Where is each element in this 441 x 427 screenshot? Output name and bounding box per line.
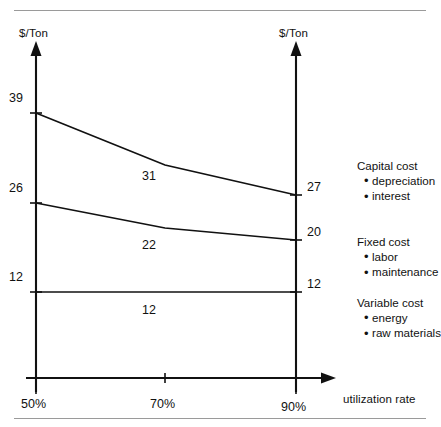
point-label-fixed-mid: 22	[142, 238, 156, 252]
x-axis-arrowhead	[321, 373, 336, 384]
legend-item-label: energy	[372, 311, 407, 324]
legend-heading: Capital cost	[357, 158, 435, 173]
bullet-icon: •	[364, 311, 372, 324]
right-tick-label-12: 12	[307, 277, 321, 291]
bullet-icon: •	[364, 250, 372, 263]
left-y-axis-title: $/Ton	[19, 27, 48, 40]
legend-item-label: labor	[372, 250, 398, 263]
x-tick-label-90: 90%	[281, 400, 306, 414]
legend-item-label: raw materials	[372, 326, 441, 339]
series-line-capital-cost	[36, 113, 296, 195]
bullet-icon: •	[364, 174, 372, 187]
x-tick-label-70: 70%	[150, 397, 175, 411]
legend-item-label: maintenance	[372, 265, 438, 278]
point-label-variable-mid: 12	[142, 303, 156, 317]
left-tick-label-39: 39	[9, 91, 23, 105]
legend-item: •energy	[357, 310, 441, 325]
right-tick-label-20: 20	[307, 225, 321, 239]
legend-heading: Fixed cost	[357, 234, 438, 249]
right-y-axis-title: $/Ton	[279, 27, 308, 40]
legend-item: •labor	[357, 249, 438, 264]
legend-heading: Variable cost	[357, 295, 441, 310]
point-label-capital-mid: 31	[142, 169, 156, 183]
legend-block-fixed-cost: Fixed cost •labor •maintenance	[357, 234, 438, 279]
bullet-icon: •	[364, 190, 372, 203]
left-y-axis-arrowhead	[31, 41, 42, 56]
series-line-fixed-cost	[36, 203, 296, 240]
legend-block-capital-cost: Capital cost •depreciation •interest	[357, 158, 435, 203]
legend-item: •depreciation	[357, 173, 435, 188]
bullet-icon: •	[364, 327, 372, 340]
left-tick-label-12: 12	[9, 270, 23, 284]
x-tick-label-50: 50%	[21, 397, 46, 411]
right-y-axis-arrowhead	[291, 41, 302, 56]
legend-item: •interest	[357, 188, 435, 203]
x-axis-title: utilization rate	[343, 393, 416, 406]
legend-item-label: interest	[372, 189, 410, 202]
legend-block-variable-cost: Variable cost •energy •raw materials	[357, 295, 441, 340]
legend-item: •maintenance	[357, 264, 438, 279]
left-tick-label-26: 26	[9, 181, 23, 195]
legend-item: •raw materials	[357, 325, 441, 340]
right-tick-label-27: 27	[307, 180, 321, 194]
bullet-icon: •	[364, 266, 372, 279]
legend-item-label: depreciation	[372, 174, 435, 187]
